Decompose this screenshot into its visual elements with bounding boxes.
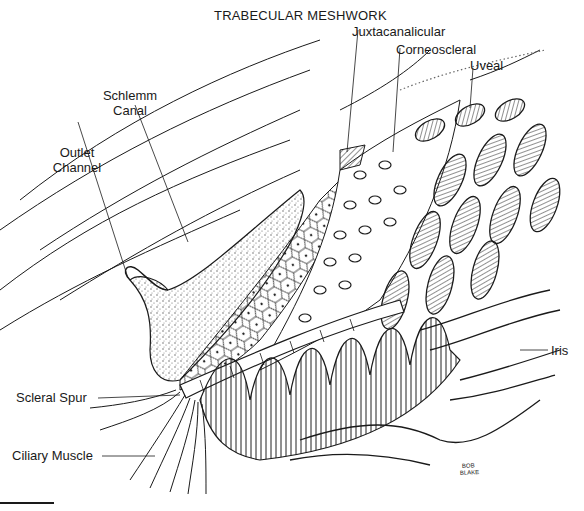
figure-canvas: BOB BLAKE TRABECULAR MESHWORK Juxtacanal… — [0, 0, 584, 511]
svg-text:BLAKE: BLAKE — [460, 469, 480, 476]
artist-signature: BOB — [462, 462, 475, 469]
figure-title: TRABECULAR MESHWORK — [214, 8, 387, 23]
label-outlet-channel: Outlet Channel — [46, 145, 108, 175]
label-schlemm-line1: Schlemm — [98, 88, 162, 103]
label-juxtacanalicular: Juxtacanalicular — [352, 24, 445, 39]
label-scleral-spur: Scleral Spur — [16, 390, 87, 405]
label-schlemm-line2: Canal — [98, 103, 162, 118]
label-corneoscleral: Corneoscleral — [396, 42, 476, 57]
label-iris: Iris — [551, 343, 568, 358]
scale-rule — [0, 502, 54, 504]
label-ciliary-muscle: Ciliary Muscle — [12, 448, 93, 463]
label-outlet-line1: Outlet — [46, 145, 108, 160]
label-outlet-line2: Channel — [46, 160, 108, 175]
ciliary-muscle-fibers — [90, 390, 206, 494]
label-uveal: Uveal — [470, 58, 503, 73]
label-schlemm-canal: Schlemm Canal — [98, 88, 162, 118]
trabecular-meshwork-illustration: BOB BLAKE — [0, 0, 584, 511]
